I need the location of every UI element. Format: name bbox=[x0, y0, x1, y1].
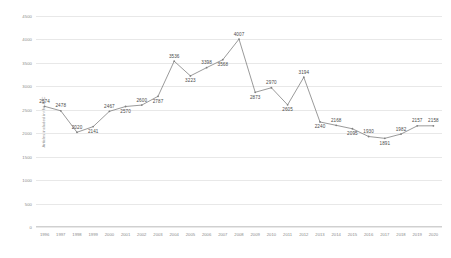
data-point bbox=[222, 59, 224, 61]
data-point bbox=[44, 105, 46, 107]
data-point-label: 2605 bbox=[282, 107, 293, 112]
x-axis-tick-label: 2003 bbox=[153, 232, 162, 237]
y-axis-tick-label: 1500 bbox=[22, 154, 32, 159]
data-point-label: 2600 bbox=[136, 98, 147, 103]
y-axis-tick-label: 2000 bbox=[22, 131, 32, 136]
y-axis-tick-label: 1000 bbox=[22, 178, 32, 183]
y-axis-tick-label: 500 bbox=[25, 201, 32, 206]
data-point-label: 2158 bbox=[428, 118, 439, 123]
data-point-label: 2467 bbox=[104, 104, 115, 109]
data-point bbox=[157, 95, 159, 97]
line-chart: Articles included in the ATC 45004000350… bbox=[0, 0, 451, 258]
data-point bbox=[108, 110, 110, 112]
x-axis-tick-label: 2005 bbox=[186, 232, 195, 237]
series-line bbox=[36, 16, 442, 227]
data-point bbox=[271, 87, 273, 89]
x-axis-tick-label: 1996 bbox=[40, 232, 49, 237]
gridline bbox=[36, 227, 442, 228]
x-axis-tick-label: 2006 bbox=[202, 232, 211, 237]
y-axis-tick-label: 4500 bbox=[22, 14, 32, 19]
x-axis-tick-label: 2007 bbox=[218, 232, 227, 237]
x-axis-tick-label: 2015 bbox=[348, 232, 357, 237]
data-point bbox=[92, 126, 94, 128]
x-axis-tick-label: 1999 bbox=[89, 232, 98, 237]
x-axis-tick-label: 2004 bbox=[170, 232, 179, 237]
y-axis-tick-label: 3500 bbox=[22, 60, 32, 65]
data-point-label: 3194 bbox=[298, 70, 309, 75]
data-point-label: 2574 bbox=[39, 99, 50, 104]
y-axis-tick-label: 0 bbox=[30, 225, 32, 230]
data-point-label: 2970 bbox=[266, 80, 277, 85]
x-axis-tick-label: 2001 bbox=[121, 232, 130, 237]
x-axis-tick-label: 2019 bbox=[413, 232, 422, 237]
data-point-label: 3223 bbox=[185, 78, 196, 83]
y-axis-tick-label: 3000 bbox=[22, 84, 32, 89]
data-point bbox=[433, 125, 435, 127]
data-point bbox=[319, 121, 321, 123]
x-axis-tick-label: 2009 bbox=[251, 232, 260, 237]
data-point bbox=[384, 137, 386, 139]
data-point bbox=[206, 67, 208, 69]
data-point-label: 2095 bbox=[347, 131, 358, 136]
data-point-label: 2168 bbox=[331, 118, 342, 123]
data-point-label: 1982 bbox=[396, 127, 407, 132]
x-axis-tick-label: 2012 bbox=[299, 232, 308, 237]
data-point bbox=[141, 104, 143, 106]
data-point bbox=[287, 104, 289, 106]
x-axis-tick-label: 1997 bbox=[56, 232, 65, 237]
plot-area: Articles included in the ATC 45004000350… bbox=[36, 16, 442, 227]
x-axis-tick-label: 2014 bbox=[332, 232, 341, 237]
data-point bbox=[173, 60, 175, 62]
data-point-label: 2787 bbox=[153, 99, 164, 104]
data-point-label: 2240 bbox=[315, 124, 326, 129]
data-point bbox=[254, 91, 256, 93]
x-axis-tick-label: 2010 bbox=[267, 232, 276, 237]
data-point-label: 2157 bbox=[412, 118, 423, 123]
data-point-label: 3536 bbox=[169, 54, 180, 59]
x-axis-tick-label: 2017 bbox=[380, 232, 389, 237]
data-point bbox=[60, 110, 62, 112]
data-point-label: 2570 bbox=[120, 109, 131, 114]
data-point-label: 2873 bbox=[250, 95, 261, 100]
data-point-label: 2020 bbox=[72, 125, 83, 130]
data-point bbox=[400, 133, 402, 135]
data-point bbox=[76, 131, 78, 133]
y-axis-tick-label: 2500 bbox=[22, 107, 32, 112]
x-axis-tick-label: 2016 bbox=[364, 232, 373, 237]
data-point bbox=[416, 125, 418, 127]
data-point-label: 3568 bbox=[217, 62, 228, 67]
x-axis-tick-label: 2020 bbox=[429, 232, 438, 237]
x-axis-tick-label: 2008 bbox=[234, 232, 243, 237]
data-point-label: 4007 bbox=[234, 32, 245, 37]
y-axis-tick-label: 4000 bbox=[22, 37, 32, 42]
data-point bbox=[190, 75, 192, 77]
data-point bbox=[335, 124, 337, 126]
x-axis-tick-label: 2000 bbox=[105, 232, 114, 237]
data-point bbox=[238, 38, 240, 40]
x-axis-tick-label: 1998 bbox=[72, 232, 81, 237]
data-point bbox=[303, 76, 305, 78]
x-axis-tick-label: 2002 bbox=[137, 232, 146, 237]
data-point bbox=[368, 136, 370, 138]
data-point-label: 2478 bbox=[55, 103, 66, 108]
data-point-label: 1891 bbox=[379, 141, 390, 146]
data-point-label: 1930 bbox=[363, 129, 374, 134]
data-point-label: 2141 bbox=[88, 129, 99, 134]
x-axis-tick-label: 2011 bbox=[283, 232, 292, 237]
data-point bbox=[352, 128, 354, 130]
x-axis-tick-label: 2018 bbox=[396, 232, 405, 237]
data-point-label: 3398 bbox=[201, 60, 212, 65]
data-point bbox=[125, 106, 127, 108]
x-axis-tick-label: 2013 bbox=[315, 232, 324, 237]
